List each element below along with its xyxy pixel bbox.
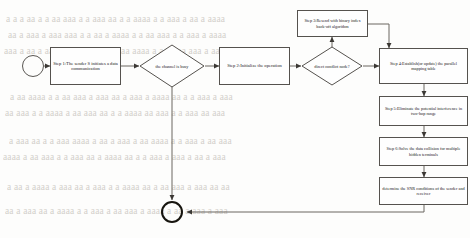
edge-snr-end <box>187 205 424 212</box>
node-snr-label: determine the SNR conditions of the send… <box>382 186 465 196</box>
node-snr-condition[interactable]: determine the SNR conditions of the send… <box>379 177 468 205</box>
node-step4[interactable]: Step 4:Establish(or update) the parallel… <box>379 48 468 84</box>
edge-step3-step4 <box>368 24 389 48</box>
node-decision-direct-conflict[interactable]: direct conflict node? <box>301 46 363 86</box>
node-step6-label: Step 6:Solve the data collision for mult… <box>382 146 465 156</box>
start-node[interactable] <box>22 55 44 77</box>
node-step4-label: Step 4:Establish(or update) the parallel… <box>382 61 465 71</box>
node-decision-channel-busy[interactable]: the channel is busy <box>139 44 205 88</box>
node-step6[interactable]: Step 6:Solve the data collision for mult… <box>379 137 468 166</box>
flowchart-canvas: a a a aa a a aa aaa a a aaa aa a a aaaa … <box>0 0 470 238</box>
decision-channel-shape <box>139 44 205 88</box>
end-node[interactable] <box>161 201 183 223</box>
node-step3-label: Step 3:Resend with binary index back-off… <box>300 18 365 28</box>
node-step3[interactable]: Step 3:Resend with binary index back-off… <box>297 10 368 37</box>
decision-conflict-shape <box>301 46 363 86</box>
node-step2[interactable]: Step 2:Initialize the operation <box>219 47 290 85</box>
node-step5[interactable]: Step 5:Eliminate the potential interfere… <box>379 96 468 126</box>
node-step5-label: Step 5:Eliminate the potential interfere… <box>382 106 465 116</box>
node-step2-label: Step 2:Initialize the operation <box>227 63 281 68</box>
node-step1[interactable]: Step 1:The sender S initiates a data com… <box>50 47 121 85</box>
node-step1-label: Step 1:The sender S initiates a data com… <box>53 61 118 72</box>
